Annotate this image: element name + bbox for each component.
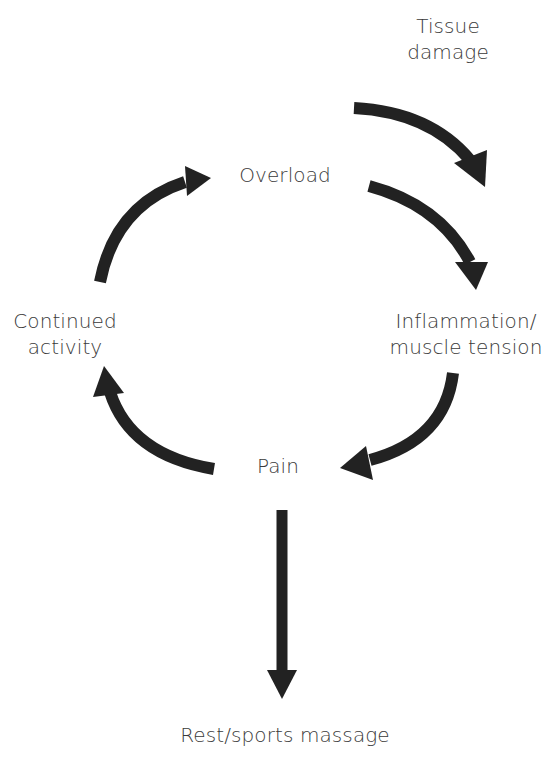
overload-label: Overload bbox=[225, 162, 345, 188]
continued-activity-line2: activity bbox=[5, 334, 125, 360]
arrow-continued-activity-to-overload bbox=[100, 166, 211, 282]
node-continued-activity: Continued activity bbox=[5, 308, 125, 360]
arrow-inflammation-to-pain bbox=[340, 373, 453, 480]
arrow-pain-to-continued-activity bbox=[93, 366, 214, 469]
arrow-pain-to-rest bbox=[267, 510, 297, 699]
tissue-damage-line1: Tissue bbox=[398, 13, 498, 39]
pain-cycle-diagram: Tissue damage Overload Continued activit… bbox=[0, 0, 544, 764]
node-pain: Pain bbox=[238, 453, 318, 479]
rest-label: Rest/sports massage bbox=[170, 722, 400, 748]
node-rest-sports-massage: Rest/sports massage bbox=[170, 722, 400, 748]
node-tissue-damage: Tissue damage bbox=[398, 13, 498, 65]
pain-label: Pain bbox=[238, 453, 318, 479]
inflammation-line2: muscle tension bbox=[381, 334, 544, 360]
arrow-tissue-damage-to-inflammation bbox=[354, 108, 487, 187]
arrow-overload-to-inflammation bbox=[369, 186, 488, 290]
node-overload: Overload bbox=[225, 162, 345, 188]
continued-activity-line1: Continued bbox=[5, 308, 125, 334]
tissue-damage-line2: damage bbox=[398, 39, 498, 65]
node-inflammation-muscle-tension: Inflammation/ muscle tension bbox=[381, 308, 544, 360]
inflammation-line1: Inflammation/ bbox=[381, 308, 544, 334]
